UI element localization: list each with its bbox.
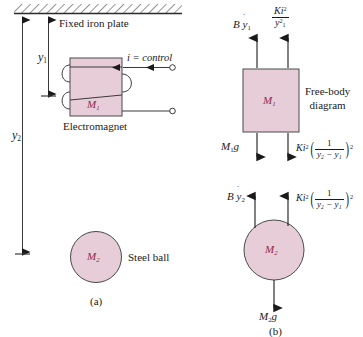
fbd2-mass-label: M2	[265, 243, 278, 256]
fbd1-damping-force-label: B ˙y1	[233, 18, 251, 31]
fbd2-gap-den: y₂ − y₁	[315, 200, 344, 209]
m1-var: M	[87, 98, 96, 110]
fbd1-paren-open: (	[310, 138, 313, 160]
fbd1-paren-close: )	[345, 138, 348, 160]
fbd1-w-m: M	[221, 140, 230, 152]
fbd1-mag-den: y21	[272, 18, 289, 29]
fbd2-gap-num: 1	[315, 189, 344, 199]
fbd1-m1: M	[263, 94, 272, 106]
fbd2-ydot-sub: 2	[241, 196, 244, 203]
fbd1-B: B	[233, 18, 240, 30]
fbd2-paren-open: (	[310, 188, 313, 210]
fbd1-gap-num: 1	[315, 139, 344, 149]
electromagnet-label: Electromagnet	[63, 120, 127, 132]
fbd2-paren-close: )	[345, 188, 348, 210]
y1-sub: 1	[43, 56, 47, 65]
fbd2-gap-sup: 2	[350, 193, 353, 200]
fbd1-ydot-sub: 1	[247, 24, 250, 31]
fbd2-gap-force-label: Ki2( 1 y₂ − y₁ )2	[296, 188, 353, 210]
fixed-iron-plate	[14, 4, 182, 14]
fbd2-weight-label: M2g	[259, 310, 277, 323]
fbd2-m2: M	[265, 243, 274, 255]
dimension-y1-label: y1	[38, 50, 47, 65]
fbd1-gap-coef-sup: 2	[305, 143, 308, 150]
fixed-iron-plate-label: Fixed iron plate	[59, 17, 129, 29]
m2-sub: 2	[96, 256, 99, 263]
fbd1-mass-label: M1	[263, 94, 276, 107]
dimension-y2-label: y2	[12, 128, 21, 143]
fbd2-B: B	[227, 190, 234, 202]
fbd1-gap-force-label: Ki2( 1 y₂ − y₁ )2	[296, 138, 353, 160]
electromagnet-mass-label: M1	[87, 98, 100, 111]
fbd2-gap-coef-sup: 2	[305, 193, 308, 200]
fbd1-weight-label: M1g	[221, 140, 239, 153]
steel-ball-label: Steel ball	[128, 251, 169, 263]
fbd1-gap-sup: 2	[350, 143, 353, 150]
control-current-label: i = control	[127, 52, 172, 63]
fbd2-w-m: M	[259, 310, 268, 322]
fbd2-damping-force-label: B ˙y2	[227, 190, 245, 203]
fbd1-magnetic-force-label: Ki2 y21	[272, 6, 289, 28]
y2-sub: 2	[17, 134, 21, 143]
m1-sub: 1	[96, 104, 99, 111]
fbd1-m1-sub: 1	[272, 100, 275, 107]
steel-ball-mass-label: M2	[87, 250, 100, 263]
fbd1-w-g: g	[234, 140, 240, 152]
fbd2-w-g: g	[272, 310, 278, 322]
fbd2-m2-sub: 2	[274, 249, 277, 256]
fbd-title-line1: Free-body	[305, 85, 350, 99]
m2-var: M	[87, 250, 96, 262]
free-body-diagram-title: Free-body diagram	[305, 85, 350, 113]
caption-a: (a)	[90, 295, 102, 307]
caption-b: (b)	[269, 325, 282, 337]
fbd-title-line2: diagram	[305, 99, 350, 113]
fbd1-gap-den: y₂ − y₁	[315, 150, 344, 159]
